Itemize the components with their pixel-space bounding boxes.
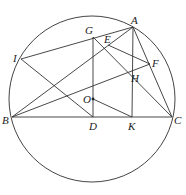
point-label-D: D <box>89 121 97 132</box>
point-label-K: K <box>128 121 135 132</box>
segment-BF <box>12 64 150 117</box>
diagram-svg <box>0 0 186 195</box>
segment-OK <box>93 99 132 117</box>
geometry-diagram: AGEIFHOBDKC <box>0 0 186 195</box>
point-label-C: C <box>174 115 181 126</box>
segment-IA <box>21 27 133 59</box>
point-label-E: E <box>104 34 111 45</box>
point-dot-O <box>92 98 95 101</box>
segment-EF <box>108 45 150 64</box>
segment-ID <box>21 59 93 117</box>
point-label-O: O <box>83 94 91 105</box>
point-label-G: G <box>85 25 93 36</box>
point-label-I: I <box>13 53 17 64</box>
point-label-F: F <box>152 58 159 69</box>
point-label-A: A <box>131 15 138 26</box>
point-label-B: B <box>2 115 9 126</box>
segment-BA <box>12 27 133 117</box>
point-label-H: H <box>131 73 139 84</box>
